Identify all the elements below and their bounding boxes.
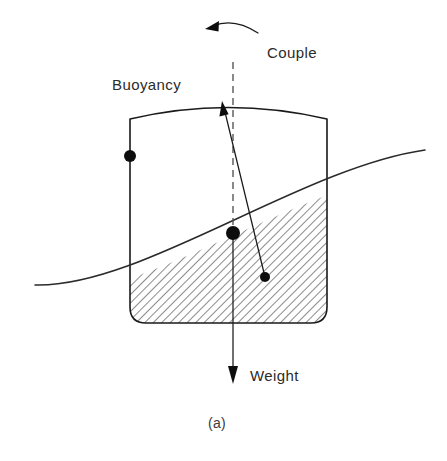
center-of-gravity-dot bbox=[226, 226, 240, 240]
weight-arrowhead bbox=[228, 366, 238, 384]
weight-label: Weight bbox=[250, 367, 299, 384]
couple-arc bbox=[213, 23, 258, 33]
buoyancy-diagram: Buoyancy Couple Weight (a) bbox=[0, 0, 447, 461]
figure-caption: (a) bbox=[208, 415, 226, 431]
buoyancy-arrowhead bbox=[219, 101, 228, 117]
left-wall-point bbox=[124, 150, 136, 162]
couple-arrowhead bbox=[205, 21, 219, 32]
buoyancy-label: Buoyancy bbox=[112, 76, 181, 93]
center-of-buoyancy-dot bbox=[260, 272, 270, 282]
couple-label: Couple bbox=[267, 44, 317, 61]
figure-container: Buoyancy Couple Weight (a) bbox=[0, 0, 447, 461]
hatch-area bbox=[25, 165, 435, 340]
submerged-region bbox=[25, 165, 435, 340]
